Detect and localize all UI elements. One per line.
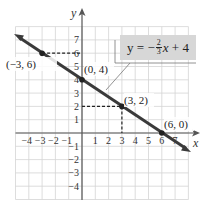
y-tick-labels: 7654321−1−2−3−4 [68,34,79,191]
y-tick-label: −4 [68,181,79,192]
x-tick-label: 1 [93,135,98,146]
y-axis-label: y [70,6,77,20]
point-6-0 [159,130,165,136]
equation-suffix: + 4 [169,40,189,56]
x-tick-labels: −4−3−2−11234567 [21,135,177,146]
x-tick-label: 2 [106,135,111,146]
equation-prefix: y = − [127,40,155,56]
y-tick-label: 5 [74,61,79,72]
y-tick-label: −3 [68,167,79,178]
y-tick-label: 7 [74,34,79,45]
x-tick-label: 4 [133,135,138,146]
x-axis-label: x [192,136,199,150]
x-tick-label: 6 [159,135,164,146]
graph-canvas: x y −4−3−2−11234567 7654321−1−2−3−4 (−3,… [0,0,216,206]
x-tick-label: −2 [48,135,59,146]
y-tick-label: 2 [74,101,79,112]
y-tick-label: −2 [68,154,79,165]
y-tick-label: −1 [68,141,79,152]
x-tick-label: −3 [35,135,46,146]
point-neg3-6 [39,50,45,56]
point-label-6-0: (6, 0) [164,118,188,131]
y-tick-label: 1 [74,114,79,125]
point-0-4 [79,77,85,83]
x-tick-label: 3 [119,135,124,146]
point-label-0-4: (0, 4) [84,63,108,76]
point-label-neg3-6: (−3, 6) [6,58,36,71]
x-tick-label: −4 [21,135,32,146]
equation-label: y = − 2 3 x + 4 [120,35,196,60]
equation-fraction: 2 3 [156,39,162,56]
x-tick-label: 5 [146,135,151,146]
y-tick-label: 3 [74,88,79,99]
fraction-denominator: 3 [157,48,161,56]
point-label-3-2: (3, 2) [124,94,148,107]
